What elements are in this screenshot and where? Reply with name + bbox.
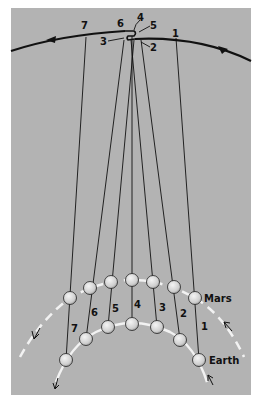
line-label-4: 4 bbox=[134, 299, 141, 310]
earth-planet bbox=[126, 318, 139, 331]
line-label-6: 6 bbox=[91, 307, 98, 318]
sky-label-5: 5 bbox=[150, 20, 157, 31]
earth-planet bbox=[174, 334, 187, 347]
earth-planet bbox=[60, 354, 73, 367]
line-label-3: 3 bbox=[159, 302, 166, 313]
earth-label: Earth bbox=[209, 355, 239, 366]
line-label-2: 2 bbox=[180, 308, 187, 319]
mars-planet bbox=[147, 276, 160, 289]
mars-planet bbox=[126, 274, 139, 287]
sky-label-1: 1 bbox=[172, 28, 179, 39]
earth-planet bbox=[193, 354, 206, 367]
earth-planet bbox=[151, 321, 164, 334]
earth-planet bbox=[102, 321, 115, 334]
line-label-1: 1 bbox=[201, 321, 208, 332]
diagram-panel bbox=[11, 8, 251, 395]
sky-label-7: 7 bbox=[81, 20, 88, 31]
sky-label-3: 3 bbox=[100, 36, 107, 47]
mars-planet bbox=[168, 281, 181, 294]
mars-planet bbox=[189, 292, 202, 305]
line-label-7: 7 bbox=[71, 323, 78, 334]
mars-planet bbox=[84, 282, 97, 295]
sky-label-6: 6 bbox=[117, 18, 124, 29]
mars-planet bbox=[64, 292, 77, 305]
line-label-5: 5 bbox=[112, 303, 119, 314]
mars-planet bbox=[105, 276, 118, 289]
earth-planet bbox=[80, 333, 93, 346]
mars-label: Mars bbox=[204, 293, 232, 304]
sky-label-2: 2 bbox=[150, 42, 157, 53]
retrograde-motion-diagram: 7 6 4 5 3 2 1 7 6 5 4 3 2 1 Mars Earth bbox=[0, 0, 262, 409]
